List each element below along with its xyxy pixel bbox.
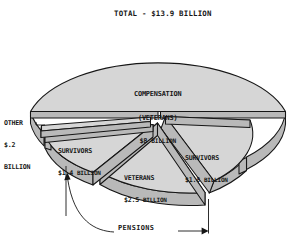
label-survivors-compensation-line2: $1.8 BILLION [185, 177, 228, 184]
label-survivors-pension-line2: $1.4 BILLION [58, 170, 101, 177]
label-survivors-compensation: SURVIVORS $1.8 BILLION [185, 140, 228, 199]
label-other-line1: OTHER [4, 120, 30, 127]
label-other: OTHER $.2 BILLION [4, 105, 30, 186]
other-leader-line [36, 122, 45, 125]
label-veterans-pension: VETERANS $2.5 BILLION [124, 160, 167, 219]
label-survivors-pension-unit: BILLION [77, 169, 101, 176]
chart-title: TOTAL - $13.9 BILLION [114, 10, 212, 18]
label-compensation-amount: $8 [139, 137, 147, 145]
label-compensation-unit: BILLION [151, 137, 176, 144]
label-survivors-pension: SURVIVORS $1.4 BILLION [58, 133, 101, 192]
label-survivors-compensation-amount: $1.8 [185, 176, 200, 184]
label-veterans-pension-unit: BILLION [143, 196, 167, 203]
label-survivors-compensation-line1: SURVIVORS [185, 155, 228, 162]
label-compensation-line1: COMPENSATION [134, 91, 181, 99]
label-veterans-pension-amount: $2.5 [124, 196, 139, 204]
label-veterans-pension-line1: VETERANS [124, 175, 167, 182]
label-compensation: COMPENSATION (VETERANS) $8 BILLION [134, 76, 181, 161]
label-survivors-pension-line1: SURVIVORS [58, 148, 101, 155]
label-survivors-compensation-unit: BILLION [204, 176, 228, 183]
label-compensation-line2: (VETERANS) [134, 115, 181, 123]
label-other-line2: $.2 [4, 142, 30, 149]
label-pensions-bracket: PENSIONS [118, 225, 154, 233]
label-compensation-line3: $8 BILLION [134, 138, 181, 146]
label-survivors-pension-amount: $1.4 [58, 169, 73, 177]
label-veterans-pension-line2: $2.5 BILLION [124, 197, 167, 204]
label-other-line3: BILLION [4, 164, 30, 171]
pie-chart-figure: .top { fill:#d6d6d6; stroke:#161616; str… [0, 0, 307, 249]
